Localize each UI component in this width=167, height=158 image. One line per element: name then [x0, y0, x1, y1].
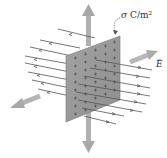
electric-field-label: E: [156, 59, 163, 69]
left-axis-arrow-icon: [10, 96, 40, 108]
right-axis-arrow-icon: [130, 50, 158, 62]
up-axis-arrow-icon: [82, 4, 95, 46]
charge-density-units: C/m²: [127, 10, 152, 20]
sigma-leader: [114, 18, 120, 32]
leader-arrowhead-icon: [113, 30, 118, 35]
charge-density-label: σ C/m²: [121, 10, 152, 20]
diagram-canvas: σ C/m² → E: [0, 0, 167, 158]
charged-sheet: [66, 36, 120, 122]
